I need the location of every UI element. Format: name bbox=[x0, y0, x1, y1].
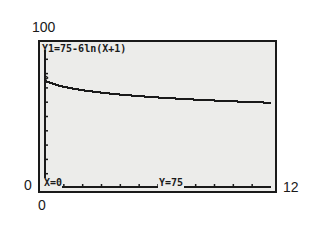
y-min-label: 0 bbox=[24, 178, 32, 192]
x-min-label: 0 bbox=[38, 198, 46, 212]
calculator-screen: Y1=75-6ln(X+1) X=0 Y=75 bbox=[38, 40, 277, 193]
y-max-label: 100 bbox=[32, 20, 55, 34]
trace-x-value: X=0 bbox=[44, 178, 62, 188]
graph-plot bbox=[40, 42, 275, 191]
x-max-label: 12 bbox=[283, 180, 299, 194]
function-curve bbox=[45, 81, 271, 103]
trace-y-value: Y=75 bbox=[158, 178, 184, 188]
equation-text: Y1=75-6ln(X+1) bbox=[42, 44, 126, 54]
